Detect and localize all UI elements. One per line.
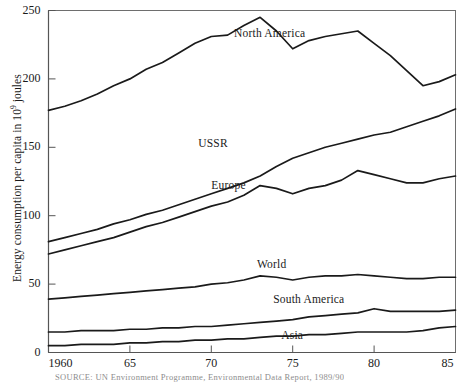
series-label-asia: Asia: [281, 329, 303, 341]
y-tick-label: 100: [11, 208, 41, 223]
series-line-world: [49, 275, 456, 300]
series-lines: [49, 17, 456, 345]
source-note: SOURCE: UN Environment Programme, Enviro…: [55, 372, 344, 383]
x-tick-label: 1960: [38, 356, 84, 371]
y-axis-title-exponent: 9: [9, 105, 18, 109]
plot-border: [49, 11, 456, 353]
series-line-asia: [49, 327, 456, 346]
y-axis-title-prefix: Energy consumption per capita in 10: [11, 109, 23, 282]
series-line-ussr: [49, 109, 456, 242]
axes-frame: [49, 11, 456, 353]
x-tick-label: 65: [107, 356, 153, 371]
y-tick-label: 0: [11, 345, 41, 360]
y-tick-label: 250: [11, 3, 41, 18]
x-tick-label: 70: [188, 356, 234, 371]
series-label-europe: Europe: [211, 179, 245, 191]
plot-area: [0, 0, 472, 384]
y-tick-label: 50: [11, 276, 41, 291]
series-line-europe: [49, 171, 456, 254]
series-label-north-america: North America: [234, 27, 305, 39]
y-axis-title: Energy consumption per capita in 109 jou…: [11, 13, 23, 343]
y-tick-label: 200: [11, 71, 41, 86]
x-tick-label: 75: [270, 356, 316, 371]
x-tick-label: 80: [351, 356, 397, 371]
series-label-south-america: South America: [273, 293, 344, 305]
y-tick-label: 150: [11, 139, 41, 154]
x-tick-label: 85: [425, 356, 471, 371]
series-label-world: World: [257, 258, 286, 270]
energy-consumption-line-chart: Energy consumption per capita in 109 jou…: [0, 0, 472, 384]
series-label-ussr: USSR: [198, 137, 228, 149]
series-line-south-america: [49, 309, 456, 332]
